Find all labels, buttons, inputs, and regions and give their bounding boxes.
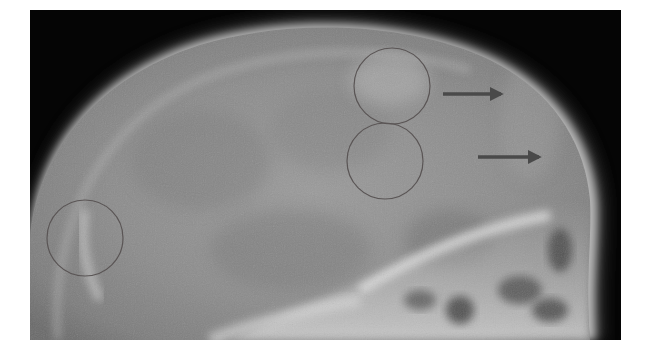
figure-canvas bbox=[0, 0, 651, 340]
skull-radiograph-illustration bbox=[30, 10, 621, 340]
skull-xray-image bbox=[30, 10, 621, 340]
